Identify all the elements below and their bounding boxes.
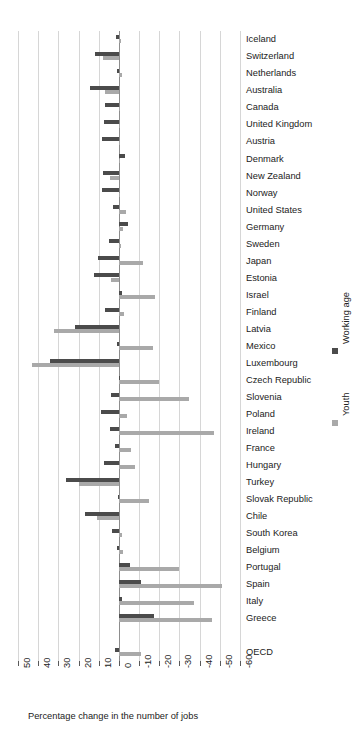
chart-row [18, 627, 240, 644]
chart-row [18, 474, 240, 491]
category-label: Israel [246, 290, 269, 300]
bar-youth [119, 414, 127, 418]
x-axis: 50403020100-10-20-30-40-50-60 [18, 661, 240, 707]
bar-youth [119, 550, 123, 554]
bar-youth [110, 176, 119, 180]
bar-working-age [105, 103, 119, 107]
x-tick--10 [139, 661, 140, 666]
category-label: Denmark [246, 154, 284, 164]
bar-youth [119, 141, 120, 145]
bar-youth [119, 567, 180, 571]
bar-youth [119, 465, 135, 469]
chart-row [18, 491, 240, 508]
category-label: Finland [246, 307, 277, 317]
bar-working-age [112, 529, 119, 533]
bar-working-age [104, 120, 119, 124]
x-tick-label--40: -40 [204, 655, 214, 668]
bar-working-age [109, 239, 119, 243]
chart-row [18, 150, 240, 167]
bar-youth [119, 124, 120, 128]
x-tick--40 [200, 661, 201, 666]
category-label: Portugal [246, 562, 281, 572]
bar-youth [119, 159, 120, 163]
chart-row [18, 355, 240, 372]
x-tick-label-50: 50 [22, 658, 32, 668]
category-label: France [246, 443, 275, 453]
x-tick-20 [79, 661, 80, 666]
category-label: Slovak Republic [246, 494, 313, 504]
x-tick-label-40: 40 [42, 658, 52, 668]
chart-row [18, 252, 240, 269]
bar-youth [119, 261, 143, 265]
chart-row [18, 184, 240, 201]
chart-row [18, 423, 240, 440]
chart-row [18, 218, 240, 235]
category-label: Czech Republic [246, 375, 311, 385]
chart-row [18, 99, 240, 116]
bar-youth [119, 533, 122, 537]
category-label: Latvia [246, 324, 271, 334]
x-tick--50 [220, 661, 221, 666]
x-tick-label--20: -20 [163, 655, 173, 668]
chart-row [18, 82, 240, 99]
category-label: Mexico [246, 341, 275, 351]
category-label: Japan [246, 256, 271, 266]
bar-youth [119, 448, 131, 452]
x-tick--60 [240, 661, 241, 666]
category-label: Hungary [246, 460, 281, 470]
chart-row [18, 542, 240, 559]
x-tick-label--10: -10 [143, 655, 153, 668]
bar-youth [97, 516, 119, 520]
plot-area [18, 31, 240, 661]
chart-row [18, 508, 240, 525]
category-label: United States [246, 205, 302, 215]
category-label: Slovenia [246, 392, 282, 402]
bar-youth [111, 278, 119, 282]
category-label: Estonia [246, 273, 277, 283]
x-tick-label-0: 0 [123, 663, 133, 668]
category-label: Chile [246, 511, 267, 521]
chart-row [18, 269, 240, 286]
legend-swatch [332, 420, 338, 426]
category-label: Austria [246, 136, 275, 146]
chart-row [18, 440, 240, 457]
chart-row [18, 610, 240, 627]
x-tick-10 [99, 661, 100, 666]
x-tick--20 [159, 661, 160, 666]
chart-row [18, 116, 240, 133]
chart-row [18, 235, 240, 252]
chart-row [18, 337, 240, 354]
category-label: Spain [246, 579, 270, 589]
chart-row [18, 525, 240, 542]
chart-row [18, 201, 240, 218]
x-tick-30 [58, 661, 59, 666]
chart-row [18, 167, 240, 184]
category-label: Netherlands [246, 68, 296, 78]
gridline--60 [240, 31, 241, 661]
legend-label: Youth [341, 393, 351, 416]
bar-youth [119, 39, 121, 43]
bar-working-age [111, 393, 119, 397]
bar-youth [119, 227, 123, 231]
category-label: Australia [246, 85, 282, 95]
category-label: Switzerland [246, 51, 294, 61]
category-label: Sweden [246, 239, 280, 249]
x-tick-50 [18, 661, 19, 666]
chart-row [18, 303, 240, 320]
bar-youth [119, 601, 194, 605]
category-label: Germany [246, 222, 284, 232]
x-tick-label--60: -60 [244, 655, 254, 668]
bar-youth [119, 295, 155, 299]
category-label: Iceland [246, 34, 276, 44]
bar-working-age [110, 427, 119, 431]
x-tick-label-10: 10 [103, 658, 113, 668]
category-label: Norway [246, 188, 278, 198]
chart-row [18, 286, 240, 303]
bar-youth [119, 312, 124, 316]
category-label-column: IcelandSwitzerlandNetherlandsAustraliaCa… [246, 31, 332, 661]
legend-label: Working age [341, 292, 351, 344]
x-tick-label-20: 20 [83, 658, 93, 668]
chart-row [18, 320, 240, 337]
chart-figure: IcelandSwitzerlandNetherlandsAustraliaCa… [0, 0, 352, 745]
chart-row [18, 593, 240, 610]
